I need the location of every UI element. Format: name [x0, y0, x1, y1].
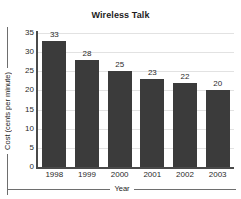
x-axis-line — [36, 167, 234, 169]
bar — [206, 90, 230, 167]
y-axis-title-rule-bottom — [7, 154, 8, 195]
x-axis-title-row: Year — [8, 184, 236, 194]
y-axis-title-rule-top — [7, 27, 8, 68]
bar — [42, 41, 66, 167]
bar-value-label: 20 — [201, 80, 234, 88]
bar-value-label: 28 — [71, 50, 104, 58]
bars-layer: 332825232220 — [38, 33, 234, 167]
x-axis-title: Year — [114, 185, 129, 193]
x-axis-title-rule-right — [134, 189, 236, 190]
x-axis-tick-label: 2001 — [136, 170, 169, 179]
bar-value-label: 25 — [103, 61, 136, 69]
chart-title: Wireless Talk — [0, 10, 241, 20]
x-axis-tick-label: 2002 — [169, 170, 202, 179]
bar — [75, 60, 99, 167]
y-axis-title: Cost (cents per minute) — [3, 72, 12, 150]
bar-chart-figure: Wireless Talk 35302520151050 33282523222… — [0, 0, 241, 199]
bar-group: 20 — [201, 33, 234, 167]
bar — [140, 79, 164, 167]
x-axis-tick-label: 1999 — [71, 170, 104, 179]
bar-group: 28 — [71, 33, 104, 167]
bar — [108, 71, 132, 167]
bar-value-label: 23 — [136, 69, 169, 77]
bar — [173, 83, 197, 167]
bar-group: 22 — [169, 33, 202, 167]
x-axis-tick-labels: 199819992000200120022003 — [38, 170, 234, 182]
bar-value-label: 33 — [38, 31, 71, 39]
bar-group: 23 — [136, 33, 169, 167]
x-axis-tick-label: 2000 — [103, 170, 136, 179]
x-axis-title-rule-left — [8, 189, 110, 190]
bar-value-label: 22 — [169, 73, 202, 81]
x-axis-tick-label: 2003 — [201, 170, 234, 179]
y-axis-title-col: Cost (cents per minute) — [2, 27, 13, 195]
bar-group: 33 — [38, 33, 71, 167]
bar-group: 25 — [103, 33, 136, 167]
x-axis-tick-label: 1998 — [38, 170, 71, 179]
